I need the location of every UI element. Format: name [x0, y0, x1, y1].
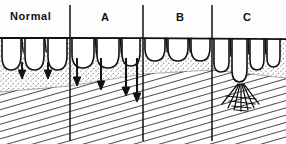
villus-normal-1 — [2, 38, 21, 70]
crypt-c-2 — [248, 39, 249, 54]
villus-b-2 — [168, 38, 188, 61]
region-label-normal: Normal — [10, 11, 52, 22]
villus-b-1 — [145, 38, 165, 61]
crypt-c-3 — [265, 39, 266, 54]
region-label-c: C — [243, 12, 251, 23]
villous-atrophy-figure: Normal A B C — [0, 0, 286, 144]
region-normal-villi — [2, 38, 67, 70]
region-b-villi — [145, 38, 210, 61]
region-a-villi — [72, 38, 140, 68]
villus-normal-3 — [48, 38, 67, 70]
crypt-block-c-4 — [267, 39, 280, 67]
crypt-b-1 — [166, 38, 167, 52]
crypt-b-2 — [189, 38, 190, 52]
villus-b-3 — [191, 38, 210, 61]
crypt-c-1 — [230, 39, 231, 56]
crypt-block-c-1 — [214, 39, 229, 72]
villus-normal-2 — [25, 38, 44, 70]
region-label-a: A — [101, 12, 109, 23]
crypt-block-c-2 — [232, 39, 247, 82]
villus-a-1 — [72, 38, 94, 68]
region-label-b: B — [176, 12, 184, 23]
crypt-block-c-3 — [250, 39, 264, 70]
